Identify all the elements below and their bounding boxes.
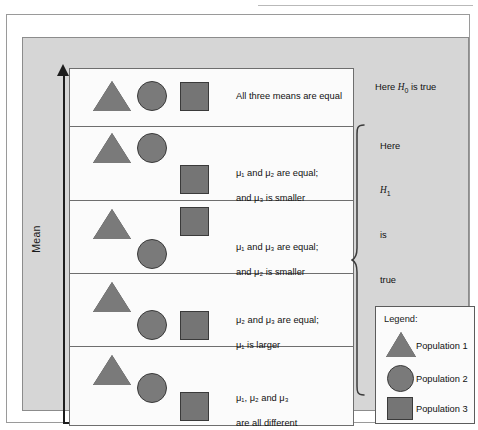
square-shape-population-3 [180, 165, 209, 194]
scenario-row-1-text: All three means are equal [236, 90, 342, 103]
h1-word-true: true [380, 275, 396, 285]
legend-box: Legend: Population 1 Population 2 Popula… [375, 306, 475, 424]
figure-panel: Mean All three means are equal μ₁ a [22, 37, 469, 411]
figure-frame: Mean All three means are equal μ₁ a [6, 14, 470, 423]
h0-prefix: Here [375, 82, 398, 92]
h1-subscript: 1 [387, 190, 391, 197]
square-shape-population-3 [180, 207, 209, 236]
mean-axis-line [63, 71, 65, 423]
triangle-shape-population-1 [93, 209, 131, 239]
top-rule [258, 5, 473, 6]
circle-shape-population-2 [137, 310, 167, 340]
h1-word-here: Here [380, 141, 400, 151]
legend-label-population-1: Population 1 [416, 341, 468, 351]
triangle-icon [386, 332, 416, 357]
legend-label-population-3: Population 3 [416, 404, 468, 414]
scenario-row-4-line-1: μ₂ and μ₃ are equal; [236, 314, 319, 327]
circle-shape-population-2 [137, 81, 167, 111]
triangle-shape-population-1 [93, 282, 131, 312]
scenario-row-1: All three means are equal [70, 69, 353, 126]
legend-item-population-1: Population 1 [376, 332, 476, 358]
scenario-row-5: μ₁, μ₂ and μ₃ are all different [70, 347, 353, 425]
circle-shape-population-2 [137, 239, 167, 269]
scenario-row-5-line-1: μ₁, μ₂ and μ₃ [236, 392, 297, 405]
scenario-row-4: μ₂ and μ₃ are equal; μ₁ is larger [70, 274, 353, 346]
square-shape-population-3 [180, 392, 209, 421]
square-shape-population-3 [180, 82, 209, 111]
h0-suffix: is true [408, 82, 436, 92]
triangle-shape-population-1 [93, 133, 131, 163]
circle-shape-population-2 [137, 133, 167, 163]
circle-shape-population-2 [137, 373, 167, 403]
scenario-row-3: μ₁ and μ₃ are equal; and μ₂ is smaller [70, 201, 353, 273]
legend-label-population-2: Population 2 [416, 374, 468, 384]
legend-item-population-3: Population 3 [376, 397, 476, 423]
square-icon [387, 397, 413, 420]
triangle-shape-population-1 [93, 355, 131, 385]
h0-annotation: Here H0 is true [375, 82, 436, 94]
scenario-row-5-text: μ₁, μ₂ and μ₃ are all different [236, 379, 297, 430]
axis-label-mean: Mean [30, 225, 42, 252]
scenario-rows-container: All three means are equal μ₁ and μ₂ are … [69, 68, 354, 426]
scenario-row-2-line-1: μ₁ and μ₂ are equal; [236, 167, 318, 180]
h1-symbol: H [380, 185, 387, 195]
scenario-row-3-line-1: μ₁ and μ₃ are equal; [236, 241, 318, 254]
legend-title: Legend: [384, 314, 418, 324]
legend-item-population-2: Population 2 [376, 365, 476, 391]
scenario-row-2: μ₁ and μ₂ are equal; and μ₃ is smaller [70, 127, 353, 200]
h1-word-is: is [380, 230, 387, 240]
square-shape-population-3 [180, 311, 209, 340]
h1-symbol-label: H1 [380, 185, 391, 197]
scenario-row-5-line-2: are all different [236, 417, 297, 430]
h1-curly-brace-icon [351, 124, 373, 400]
triangle-shape-population-1 [93, 81, 131, 111]
circle-icon [387, 365, 414, 392]
